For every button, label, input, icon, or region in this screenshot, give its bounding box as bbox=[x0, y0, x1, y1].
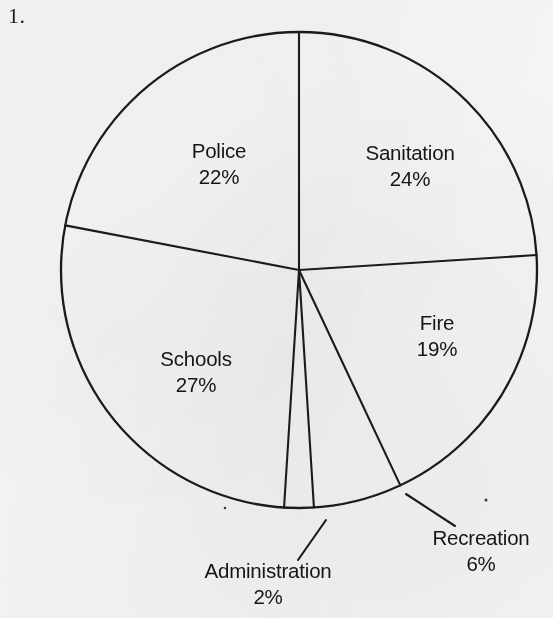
slice-label-name-recreation: Recreation bbox=[432, 526, 529, 549]
slice-label-value-administration: 2% bbox=[253, 585, 282, 608]
scan-speck bbox=[485, 499, 488, 502]
scan-speck bbox=[224, 507, 227, 510]
pie-slice-labels: Sanitation24%Fire19%Recreation6%Administ… bbox=[160, 139, 529, 608]
pie-slice-boundary bbox=[299, 270, 314, 508]
slice-label-name-sanitation: Sanitation bbox=[365, 141, 454, 164]
leader-line-recreation bbox=[406, 494, 455, 526]
leader-line-administration bbox=[298, 520, 326, 560]
pie-slice-boundary bbox=[299, 255, 537, 270]
pie-slice-boundary bbox=[65, 225, 299, 270]
pie-chart: Sanitation24%Fire19%Recreation6%Administ… bbox=[0, 0, 553, 618]
slice-label-value-fire: 19% bbox=[417, 337, 457, 360]
slice-label-value-sanitation: 24% bbox=[390, 167, 430, 190]
slice-label-value-police: 22% bbox=[199, 165, 239, 188]
slice-label-value-recreation: 6% bbox=[466, 552, 495, 575]
slice-label-name-police: Police bbox=[192, 139, 247, 162]
pie-slice-boundaries bbox=[65, 32, 536, 508]
slice-label-name-schools: Schools bbox=[160, 347, 232, 370]
pie-chart-page: 1. Sanitation24%Fire19%Recreation6%Admin… bbox=[0, 0, 553, 618]
slice-label-value-schools: 27% bbox=[176, 373, 216, 396]
pie-slice-boundary bbox=[284, 270, 299, 508]
slice-label-name-fire: Fire bbox=[420, 311, 455, 334]
slice-label-name-administration: Administration bbox=[204, 559, 331, 582]
pie-slice-boundary bbox=[299, 270, 400, 485]
